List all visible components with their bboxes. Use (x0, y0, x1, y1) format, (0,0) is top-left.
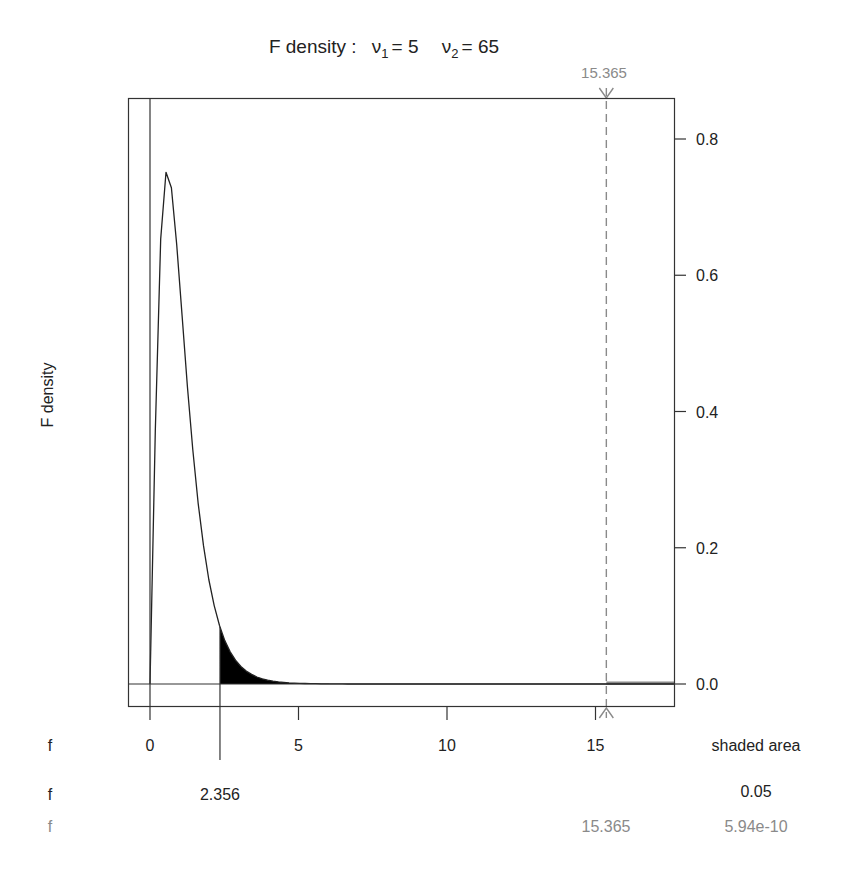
critical-row-label: f (48, 786, 53, 803)
plot-area (129, 88, 676, 760)
x-tick-label: 0 (146, 737, 155, 754)
y-tick-label: 0.2 (696, 540, 718, 557)
chart-title: F density : ν1= 5 ν2= 65 (269, 36, 499, 61)
observed-tail-area: 5.94e-10 (724, 818, 787, 835)
observed-f-value: 15.365 (582, 818, 631, 835)
observed-value-label: 15.365 (581, 64, 627, 81)
y-tick-label: 0.8 (696, 131, 718, 148)
x-axis-row-label: f (48, 737, 53, 754)
x-tick-label: 15 (587, 737, 605, 754)
plot-frame (129, 99, 675, 707)
critical-f-value: 2.356 (200, 786, 240, 803)
y-tick-label: 0.6 (696, 267, 718, 284)
shaded-area-header: shaded area (712, 737, 801, 754)
observed-row-label: f (48, 818, 53, 835)
f-density-chart: F density : ν1= 5 ν2= 65 F density 0.00.… (0, 0, 854, 886)
x-tick-label: 5 (294, 737, 303, 754)
y-axis-label: F density (39, 363, 56, 428)
shaded-rejection-region (220, 627, 676, 684)
critical-shaded-area: 0.05 (740, 783, 771, 800)
density-curve (150, 172, 674, 684)
y-tick-label: 0.4 (696, 404, 718, 421)
y-tick-label: 0.0 (696, 676, 718, 693)
x-axis: 051015 (146, 707, 605, 755)
x-tick-label: 10 (438, 737, 456, 754)
y-axis-right: 0.00.20.40.60.8 (675, 131, 719, 693)
